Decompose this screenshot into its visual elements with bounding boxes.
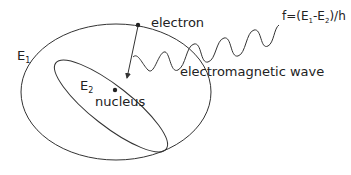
outer-orbit-e1 — [21, 24, 211, 160]
outer-level-label: E1 — [17, 48, 30, 65]
nucleus-dot — [113, 88, 117, 92]
nucleus-label: nucleus — [95, 94, 145, 109]
transition-arrow — [127, 26, 138, 78]
inner-level-label: E2 — [80, 78, 93, 95]
frequency-formula: f=(E1-E2)/h — [282, 9, 346, 25]
wave-label: electromagnetic wave — [180, 64, 324, 79]
electron-label: electron — [151, 15, 204, 30]
atom-energy-diagram: electron E1 E2 nucleus electromagnetic w… — [0, 0, 351, 175]
